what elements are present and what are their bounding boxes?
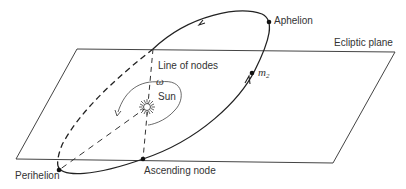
ascending-node-point	[141, 157, 146, 162]
perihelion-label: Perihelion	[15, 171, 59, 181]
sun-icon	[139, 99, 155, 115]
orbit-diagram	[0, 0, 406, 189]
aphelion-point	[267, 20, 272, 25]
orbit-dashed-lower	[58, 49, 153, 166]
m2-subscript: 2	[266, 72, 270, 80]
sun-label: Sun	[158, 92, 176, 102]
orbit-direction-arrow-top	[199, 20, 205, 25]
aphelion-label: Aphelion	[274, 16, 313, 26]
m2-point	[250, 71, 255, 76]
m2-base: m	[258, 66, 266, 78]
ecliptic-plane-label: Ecliptic plane	[334, 38, 393, 48]
omega-label: ω	[156, 76, 164, 87]
line-of-nodes-label: Line of nodes	[158, 61, 218, 71]
m2-label: m2	[258, 67, 269, 80]
ascending-node-label: Ascending node	[144, 166, 216, 176]
